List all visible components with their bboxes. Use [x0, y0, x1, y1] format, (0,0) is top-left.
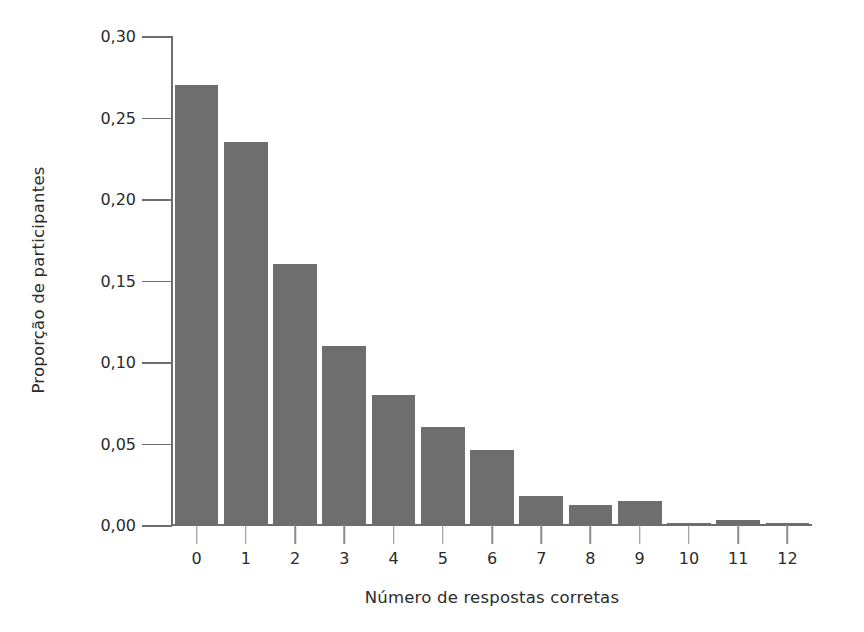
y-axis-ticks: 0,000,050,100,150,200,250,30	[0, 0, 172, 632]
x-tick-mark	[344, 525, 346, 544]
bar	[224, 142, 268, 525]
x-tick-mark	[442, 525, 444, 544]
x-tick-mark	[688, 525, 690, 544]
y-tick-mark	[142, 444, 172, 446]
bar	[569, 505, 613, 525]
bar	[175, 85, 219, 525]
x-tick-label: 2	[290, 549, 300, 568]
y-tick-label: 0,20	[100, 190, 136, 209]
y-tick-mark	[142, 525, 172, 527]
x-tick-mark	[245, 525, 247, 544]
y-tick-mark	[142, 362, 172, 364]
x-tick-label: 5	[438, 549, 448, 568]
bar	[421, 427, 465, 525]
x-tick-mark	[196, 525, 198, 544]
bar	[372, 395, 416, 525]
x-tick-label: 7	[536, 549, 546, 568]
bar	[322, 346, 366, 525]
x-tick-mark	[491, 525, 493, 544]
bar-chart-figure: Proporção de participantes 0,000,050,100…	[0, 0, 864, 632]
x-tick-label: 6	[487, 549, 497, 568]
y-tick-mark	[142, 281, 172, 283]
x-tick-label: 8	[585, 549, 595, 568]
x-tick-label: 1	[241, 549, 251, 568]
y-tick-mark	[142, 36, 172, 38]
x-tick-label: 9	[635, 549, 645, 568]
x-tick-mark	[540, 525, 542, 544]
y-tick-mark	[142, 199, 172, 201]
y-tick-label: 0,00	[100, 516, 136, 535]
bar	[618, 501, 662, 525]
y-tick-label: 0,25	[100, 108, 136, 127]
x-tick-label: 11	[728, 549, 748, 568]
bar	[273, 264, 317, 525]
bar-series	[172, 36, 812, 525]
x-tick-label: 3	[339, 549, 349, 568]
x-tick-label: 0	[192, 549, 202, 568]
y-tick-mark	[142, 118, 172, 120]
x-tick-mark	[393, 525, 395, 544]
y-tick-label: 0,05	[100, 434, 136, 453]
x-tick-mark	[294, 525, 296, 544]
x-tick-mark	[639, 525, 641, 544]
y-tick-label: 0,10	[100, 353, 136, 372]
x-tick-label: 10	[679, 549, 699, 568]
x-axis-title: Número de respostas corretas	[172, 588, 812, 607]
x-tick-label: 12	[777, 549, 797, 568]
x-tick-mark	[787, 525, 789, 544]
x-tick-mark	[737, 525, 739, 544]
bar	[519, 496, 563, 525]
y-tick-label: 0,30	[100, 27, 136, 46]
x-tick-label: 4	[388, 549, 398, 568]
y-tick-label: 0,15	[100, 271, 136, 290]
x-tick-mark	[590, 525, 592, 544]
bar	[470, 450, 514, 525]
